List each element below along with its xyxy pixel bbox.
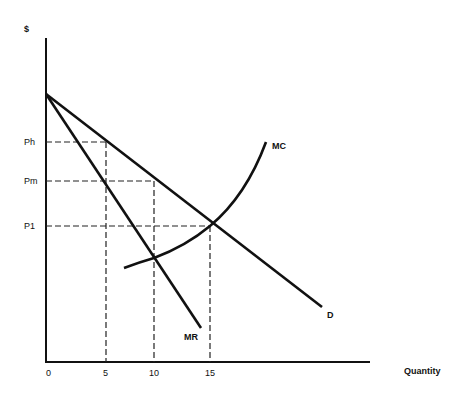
- x-axis-label: Quantity: [404, 366, 441, 376]
- y-axis-label: $: [24, 24, 29, 34]
- demand-curve: [46, 94, 322, 307]
- x-tick-0: 0: [46, 368, 51, 378]
- price-label-ph: Ph: [24, 137, 35, 147]
- monopoly-pricing-diagram: $ Quantity Ph Pm P1 0 5 10 15 MC MR D: [0, 0, 469, 394]
- marginal-cost-curve: [124, 142, 266, 268]
- marginal-revenue-curve: [46, 94, 201, 328]
- guide-lines: [46, 142, 210, 362]
- price-label-p1: P1: [24, 221, 35, 231]
- demand-curve-label: D: [327, 310, 334, 320]
- x-tick-5: 5: [103, 368, 108, 378]
- x-tick-10: 10: [149, 368, 159, 378]
- x-tick-15: 15: [205, 368, 215, 378]
- mc-curve-label: MC: [272, 141, 286, 151]
- price-label-pm: Pm: [24, 176, 38, 186]
- mr-curve-label: MR: [184, 332, 198, 342]
